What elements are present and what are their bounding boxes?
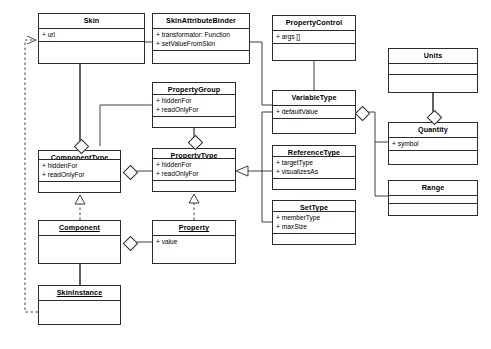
attribute: + setValueFromSkin [156,39,247,48]
attribute: + targetType [276,158,353,167]
class-attributes-skinattributebinder: + transformator: Function + setValueFrom… [153,29,249,51]
class-name-quantity: Quantity [389,123,477,138]
attribute: + transformator: Function [156,30,247,39]
class-operations-referencetype [273,179,355,189]
class-attributes-settype: + memberType + maxSize [273,212,355,234]
class-box-units[interactable]: Units [388,48,478,93]
edge-generalization-bus [248,112,272,171]
class-name-skininstance: SkinInstance [39,286,120,301]
attribute: + visualizesAs [276,167,353,176]
class-name-range: Range [389,181,477,196]
attribute: + hiddenFor [156,160,233,169]
attribute: + args [] [276,32,353,41]
class-operations-propertycontrol [273,44,355,60]
class-attributes-units [389,64,477,75]
edge-variabletype-quantity [365,112,388,142]
attribute: + defaultValue [276,107,353,116]
attribute: + value [156,237,233,246]
class-attributes-componenttype: + hiddenFor + readOnlyFor [39,160,120,182]
class-name-propertycontrol: PropertyControl [273,16,355,31]
attribute: + readOnlyFor [42,170,118,179]
edge-propertygroup-componenttype [100,105,152,146]
class-attributes-propertygroup: + hiddenFor + readOnlyFor [153,95,235,117]
edge-variabletype-range [375,142,388,196]
class-box-property[interactable]: Property + value [152,220,236,264]
realization-triangle-propertytype [189,194,199,203]
class-box-variabletype[interactable]: VariableType + defaultValue [272,90,356,134]
class-box-quantity[interactable]: Quantity + symbol [388,122,478,165]
uml-diagram-canvas: Skin + url SkinAttributeBinder + transfo… [0,0,491,349]
attribute: + maxSize [276,222,353,231]
class-name-property: Property [153,221,235,236]
class-name-referencetype: ReferenceType [273,146,355,157]
class-attributes-component [39,236,120,248]
attribute: + memberType [276,213,353,222]
class-operations-skininstance [39,311,120,324]
class-name-propertytype: PropertyType [153,149,235,159]
class-name-propertygroup: PropertyGroup [153,83,235,95]
class-attributes-variabletype: + defaultValue [273,106,355,119]
class-operations-componenttype [39,182,120,192]
class-attributes-propertytype: + hiddenFor + readOnlyFor [153,159,235,181]
class-attributes-skininstance [39,301,120,311]
attribute: + url [42,30,142,39]
class-box-propertytype[interactable]: PropertyType + hiddenFor + readOnlyFor [152,148,236,192]
generalization-triangle-propertytype [236,166,248,176]
class-box-range[interactable]: Range [388,180,478,216]
class-operations-property [153,248,235,263]
class-box-propertycontrol[interactable]: PropertyControl + args [] [272,15,356,61]
attribute: + readOnlyFor [156,169,233,178]
class-operations-propertytype [153,181,235,191]
class-box-componenttype[interactable]: ComponentType + hiddenFor + readOnlyFor [38,150,121,193]
aggregation-diamond-componenttype-propertytype [123,164,139,180]
class-box-skininstance[interactable]: SkinInstance [38,285,121,325]
class-box-propertygroup[interactable]: PropertyGroup + hiddenFor + readOnlyFor [152,82,236,128]
class-name-skin: Skin [39,14,144,29]
class-attributes-property: + value [153,236,235,248]
attribute: + hiddenFor [42,161,118,170]
class-operations-quantity [389,151,477,164]
class-name-variabletype: VariableType [273,91,355,106]
class-attributes-propertycontrol: + args [] [273,31,355,44]
class-box-skinattributebinder[interactable]: SkinAttributeBinder + transformator: Fun… [152,13,250,64]
class-box-settype[interactable]: SetType + memberType + maxSize [272,200,356,245]
class-operations-settype [273,234,355,244]
class-name-skinattributebinder: SkinAttributeBinder [153,14,249,29]
edge-generalization-settype [262,171,272,222]
class-name-settype: SetType [273,201,355,212]
class-operations-skin [39,42,144,63]
realization-triangle-componenttype [75,195,85,204]
class-attributes-quantity: + symbol [389,138,477,151]
class-box-skin[interactable]: Skin + url [38,13,145,64]
edge-skininstance-skin [25,40,38,312]
class-operations-propertygroup [153,117,235,127]
class-attributes-skin: + url [39,29,144,42]
class-operations-range [389,204,477,215]
class-box-referencetype[interactable]: ReferenceType + targetType + visualizesA… [272,145,356,190]
aggregation-diamond-component-property [123,235,139,251]
aggregation-diamond-variabletype-quantity [355,105,371,121]
attribute: + hiddenFor [156,96,233,105]
class-name-component: Component [39,221,120,236]
class-attributes-range [389,196,477,204]
class-operations-component [39,248,120,263]
class-name-units: Units [389,49,477,64]
attribute: + readOnlyFor [156,105,233,114]
attribute: + symbol [392,139,475,148]
class-attributes-referencetype: + targetType + visualizesAs [273,157,355,179]
class-operations-units [389,75,477,92]
class-operations-variabletype [273,119,355,133]
edge-skinattributebinder-variabletype [250,42,272,105]
class-operations-skinattributebinder [153,51,249,63]
class-box-component[interactable]: Component [38,220,121,264]
